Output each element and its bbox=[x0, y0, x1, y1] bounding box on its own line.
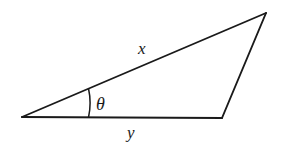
triangle-figure: x y θ bbox=[0, 0, 281, 148]
label-side-x: x bbox=[137, 39, 146, 58]
side-y-base bbox=[22, 117, 222, 118]
label-side-y: y bbox=[125, 123, 135, 142]
label-angle-theta: θ bbox=[96, 94, 105, 114]
triangle-svg: x y θ bbox=[0, 0, 281, 148]
figure-background bbox=[0, 0, 281, 148]
